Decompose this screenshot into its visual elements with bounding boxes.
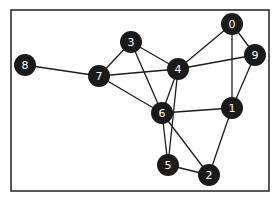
edge-3-6	[131, 42, 162, 113]
node-label: 2	[206, 169, 213, 182]
node-5: 5	[157, 154, 179, 176]
node-label: 8	[22, 59, 29, 72]
node-7: 7	[88, 65, 110, 87]
node-8: 8	[14, 54, 36, 76]
edge-8-7	[25, 65, 99, 76]
node-label: 0	[229, 18, 236, 31]
node-0: 0	[221, 13, 243, 35]
node-label: 1	[229, 102, 236, 115]
node-label: 7	[96, 70, 103, 83]
node-6: 6	[151, 102, 173, 124]
node-label: 9	[252, 49, 259, 62]
node-label: 3	[128, 36, 135, 49]
node-2: 2	[198, 164, 220, 186]
node-label: 4	[175, 63, 182, 76]
node-9: 9	[244, 44, 266, 66]
node-3: 3	[120, 31, 142, 53]
edge-7-4	[99, 69, 178, 76]
network-graph: 0123456789	[0, 0, 278, 200]
node-1: 1	[221, 97, 243, 119]
node-label: 6	[159, 107, 166, 120]
node-4: 4	[167, 58, 189, 80]
node-label: 5	[165, 159, 172, 172]
edge-4-9	[178, 55, 255, 69]
